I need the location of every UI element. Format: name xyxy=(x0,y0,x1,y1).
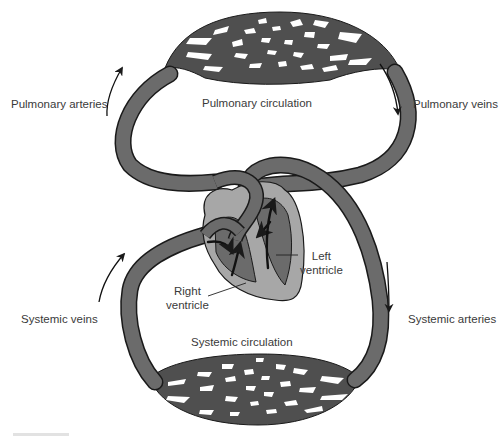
left-ventricle-label-line2: ventricle xyxy=(300,263,343,277)
circulation-diagram xyxy=(0,0,503,437)
systemic-arteries-label: Systemic arteries xyxy=(408,312,496,326)
pulmonary-capillary-bed xyxy=(165,12,400,84)
pulmonary-arteries-label: Pulmonary arteries xyxy=(11,97,108,111)
right-ventricle-label-line2: ventricle xyxy=(166,298,209,312)
systemic-capillary-bed xyxy=(150,354,360,425)
footer-bar xyxy=(13,433,69,436)
left-ventricle-label-line1: Left xyxy=(300,249,343,263)
pulmonary-veins-label: Pulmonary veins xyxy=(413,97,498,111)
right-ventricle-label-line1: Right xyxy=(166,284,209,298)
systemic-veins-arrow-icon xyxy=(99,254,124,302)
pulmonary-circulation-label: Pulmonary circulation xyxy=(202,96,312,110)
pulmonary-arteries-arrow-icon xyxy=(107,68,122,116)
heart xyxy=(203,178,304,301)
systemic-veins-label: Systemic veins xyxy=(21,312,98,326)
right-ventricle-label: Right ventricle xyxy=(166,284,209,312)
systemic-circulation-label: Systemic circulation xyxy=(191,335,293,349)
left-ventricle-label: Left ventricle xyxy=(300,249,343,277)
